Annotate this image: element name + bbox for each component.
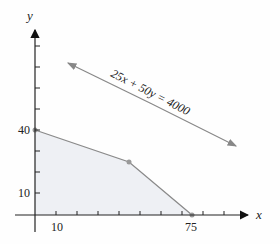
objective-line	[152, 104, 236, 146]
y-tick-label-40: 40	[18, 123, 30, 137]
linear-programming-chart: y x 10 75 40 10 25x + 50y = 4000	[0, 0, 280, 244]
x-tick-label-10: 10	[51, 220, 63, 234]
vertex-point-45-25	[127, 160, 132, 165]
x-axis-label: x	[255, 207, 262, 222]
x-tick-label-75: 75	[185, 220, 197, 234]
y-axis-label: y	[25, 8, 33, 23]
feasible-region	[35, 130, 192, 215]
y-tick-label-10: 10	[18, 186, 30, 200]
line-equation-label: 25x + 50y = 4000	[109, 66, 193, 118]
